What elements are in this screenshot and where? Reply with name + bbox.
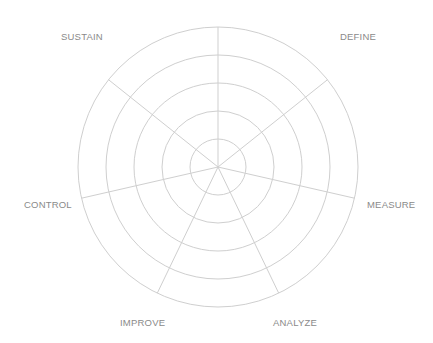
radar-chart — [0, 0, 433, 343]
axis-label-define: DEFINE — [340, 31, 376, 42]
axis-label-analyze: ANALYZE — [273, 317, 317, 328]
radar-grid-spokes — [82, 27, 355, 293]
axis-label-improve: IMPROVE — [120, 317, 165, 328]
axis-label-measure: MEASURE — [367, 199, 415, 210]
axis-label-control: CONTROL — [24, 199, 72, 210]
axis-label-sustain: SUSTAIN — [61, 31, 103, 42]
